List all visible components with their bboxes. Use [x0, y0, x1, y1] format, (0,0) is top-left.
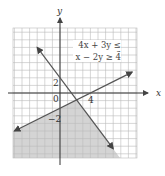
graph: x y 0 4 2 −2: [0, 0, 165, 176]
inequality-2: x − 2y ≥ 4: [73, 52, 121, 62]
y-axis-label: y: [56, 6, 63, 16]
origin-label: 0: [53, 94, 59, 104]
y-tick-neg2: −2: [48, 114, 61, 124]
y-tick-2: 2: [53, 78, 59, 88]
x-axis-label: x: [156, 88, 161, 98]
x-tick-4: 4: [88, 95, 94, 105]
